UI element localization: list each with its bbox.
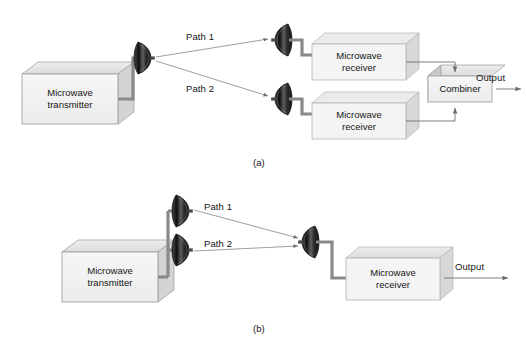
path2-label-a: Path 2 bbox=[186, 83, 214, 95]
path1-label-b: Path 1 bbox=[204, 201, 232, 213]
diagram-a-group bbox=[22, 24, 521, 139]
transmit-antenna-b-2 bbox=[172, 234, 193, 266]
subfigure-caption-b: (b) bbox=[253, 323, 265, 334]
output-label-a: Output bbox=[476, 72, 505, 84]
receiver-label-a-1: Microwave receiver bbox=[312, 50, 406, 73]
diagram-vector-layer bbox=[0, 0, 526, 345]
transmitter-label-b-line2: transmitter bbox=[88, 277, 133, 288]
combiner-label: Combiner bbox=[428, 83, 492, 95]
receiver-label-b-line1: Microwave bbox=[370, 267, 415, 278]
subfigure-caption-a: (a) bbox=[253, 157, 265, 168]
path1-label-a: Path 1 bbox=[186, 31, 214, 43]
receiver-label-a-1-line1: Microwave bbox=[336, 50, 381, 61]
transmitter-label-b: Microwave transmitter bbox=[62, 265, 158, 288]
figure-canvas: Microwave transmitter Path 1 Path 2 Micr… bbox=[0, 0, 526, 345]
receiver-label-a-2-line2: receiver bbox=[342, 121, 376, 132]
path1-ray-b bbox=[194, 210, 298, 238]
transmitter-label-a-line2: transmitter bbox=[48, 99, 93, 110]
output-label-b: Output bbox=[455, 261, 484, 273]
receiver-label-a-2: Microwave receiver bbox=[312, 109, 406, 132]
transmitter-label-b-line1: Microwave bbox=[87, 265, 132, 276]
receive-antenna-a-2 bbox=[271, 83, 292, 115]
receiver-label-b: Microwave receiver bbox=[346, 267, 440, 290]
receiver-label-a-1-line2: receiver bbox=[342, 62, 376, 73]
receiver-label-a-2-line1: Microwave bbox=[336, 109, 381, 120]
transmitter-label-a-line1: Microwave bbox=[47, 87, 92, 98]
transmit-antenna-b-1 bbox=[172, 195, 193, 227]
receive-antenna-b bbox=[298, 226, 319, 258]
receive-antenna-a-1 bbox=[271, 24, 292, 56]
transmit-antenna-a bbox=[134, 42, 155, 74]
receiver-label-b-line2: receiver bbox=[376, 279, 410, 290]
path2-label-b: Path 2 bbox=[204, 238, 232, 250]
transmitter-label-a: Microwave transmitter bbox=[22, 87, 118, 110]
